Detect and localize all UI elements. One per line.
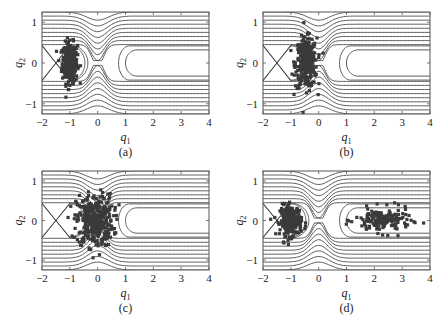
x-tick-label: 3 (399, 116, 405, 128)
x-tick-label: 4 (206, 272, 212, 284)
x-axis-label: q1 (121, 130, 131, 146)
y-axis-label: q2 (11, 58, 27, 68)
panel-d: −2−101234−101q1q2(d) (232, 171, 433, 315)
x-tick-label: 1 (123, 272, 129, 284)
x-tick-label: 3 (178, 272, 184, 284)
x-tick-label: 1 (344, 272, 350, 284)
y-tick-label: −1 (246, 98, 258, 110)
x-axis-label: q1 (342, 286, 352, 302)
x-tick-label: 0 (95, 116, 101, 128)
panel-a: −2−101234−101q1q2(a) (11, 12, 212, 159)
x-tick-label: −2 (36, 116, 48, 128)
x-tick-label: 3 (399, 272, 405, 284)
x-tick-label: −1 (285, 116, 297, 128)
contour-lines (42, 171, 209, 270)
x-tick-label: 2 (372, 272, 378, 284)
x-tick-label: 3 (178, 116, 184, 128)
x-tick-label: 1 (123, 116, 129, 128)
x-tick-label: −2 (36, 272, 48, 284)
y-tick-label: 1 (253, 16, 259, 28)
y-tick-label: 1 (253, 175, 259, 187)
x-tick-label: 0 (95, 272, 101, 284)
x-tick-label: −1 (64, 272, 76, 284)
x-tick-label: −2 (257, 116, 269, 128)
y-tick-label: 0 (253, 215, 259, 227)
y-tick-label: 0 (32, 57, 38, 69)
panel-caption: (c) (119, 301, 132, 315)
y-tick-label: 0 (253, 57, 259, 69)
y-axis-label: q2 (232, 216, 248, 226)
y-axis-label: q2 (11, 216, 27, 226)
panel-c: −2−101234−101q1q2(c) (11, 171, 212, 315)
panel-b: −2−101234−101q1q2(b) (232, 12, 433, 159)
x-tick-label: −2 (257, 272, 269, 284)
figure-canvas: −2−101234−101q1q2(a)−2−101234−101q1q2(b)… (0, 0, 442, 323)
x-tick-label: 4 (427, 272, 433, 284)
x-tick-label: 2 (372, 116, 378, 128)
x-tick-label: 0 (316, 116, 322, 128)
y-tick-label: 1 (32, 16, 38, 28)
x-tick-label: 2 (151, 272, 157, 284)
x-tick-label: 4 (206, 116, 212, 128)
x-tick-label: 2 (151, 116, 157, 128)
panel-caption: (b) (340, 145, 354, 159)
x-tick-label: −1 (64, 116, 76, 128)
y-tick-label: 1 (32, 175, 38, 187)
contour-lines (263, 12, 430, 114)
x-tick-label: −1 (285, 272, 297, 284)
x-tick-label: 4 (427, 116, 433, 128)
panel-caption: (a) (119, 145, 132, 159)
y-tick-label: −1 (25, 254, 37, 266)
x-tick-label: 1 (344, 116, 350, 128)
panel-caption: (d) (340, 301, 354, 315)
y-tick-label: −1 (25, 98, 37, 110)
x-axis-label: q1 (121, 286, 131, 302)
y-tick-label: 0 (32, 215, 38, 227)
y-axis-label: q2 (232, 58, 248, 68)
x-tick-label: 0 (316, 272, 322, 284)
y-tick-label: −1 (246, 254, 258, 266)
x-axis-label: q1 (342, 130, 352, 146)
